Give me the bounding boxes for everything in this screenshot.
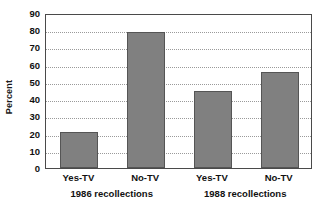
bar [194, 91, 232, 169]
y-axis-tick-label: 80 [18, 26, 40, 36]
y-axis-tick-label: 40 [18, 95, 40, 105]
y-axis-tick-label: 60 [18, 61, 40, 71]
x-axis-group-label: 1988 recollections [204, 188, 286, 199]
y-axis-tick-label: 0 [18, 164, 40, 174]
y-axis-tick-label: 10 [18, 147, 40, 157]
x-axis-tick-label: No-TV [131, 172, 159, 183]
x-axis-group-label: 1986 recollections [71, 188, 153, 199]
bar [60, 132, 98, 168]
y-axis-title-text: Percent [4, 80, 14, 114]
y-axis-tick-label: 50 [18, 78, 40, 88]
bar [127, 32, 165, 168]
y-axis-title: Percent [2, 52, 16, 142]
y-axis-tick-label: 20 [18, 130, 40, 140]
x-axis-tick-label: No-TV [265, 172, 293, 183]
x-axis-tick-label: Yes-TV [196, 172, 228, 183]
bars-layer [46, 15, 311, 168]
plot-area [45, 14, 312, 169]
x-axis-group-labels: 1986 recollections1988 recollections [45, 188, 312, 202]
y-axis-tick-labels: 0102030405060708090 [18, 14, 40, 169]
y-axis-tick-label: 30 [18, 113, 40, 123]
x-axis-tick-label: Yes-TV [63, 172, 95, 183]
y-axis-tick-label: 70 [18, 44, 40, 54]
bar [261, 72, 299, 168]
y-axis-tick-label: 90 [18, 9, 40, 19]
bar-chart: Percent 0102030405060708090 Yes-TVNo-TVY… [0, 0, 324, 212]
x-axis-tick-labels: Yes-TVNo-TVYes-TVNo-TV [45, 172, 312, 185]
